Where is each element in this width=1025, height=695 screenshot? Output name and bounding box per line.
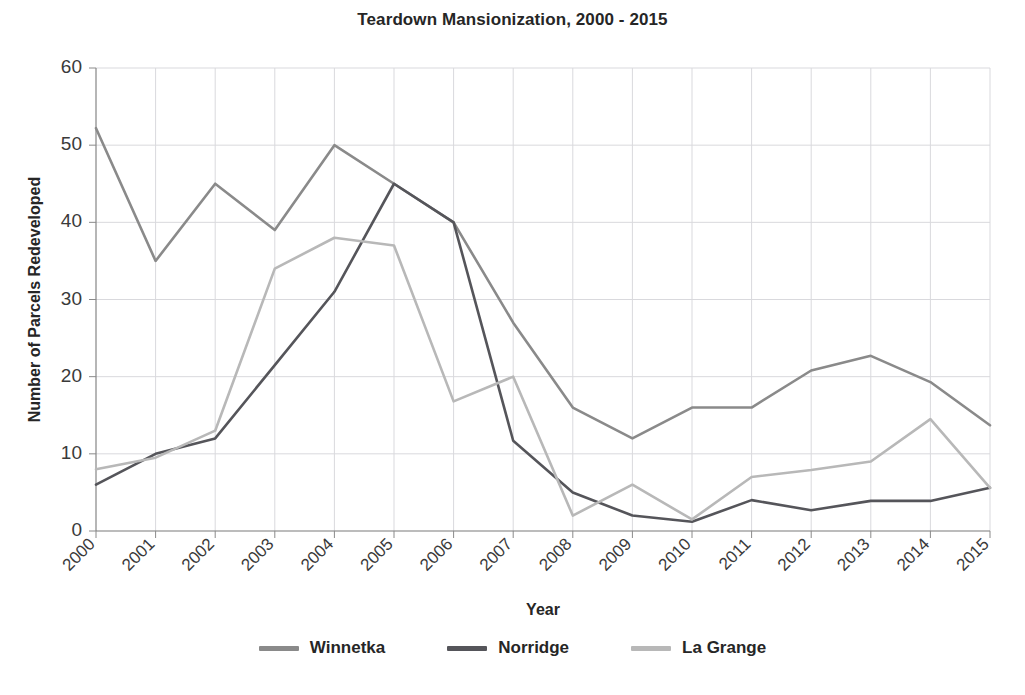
x-tick-label: 2012 bbox=[774, 534, 814, 574]
y-tick-label: 40 bbox=[61, 210, 82, 231]
x-tick-label: 2008 bbox=[535, 534, 575, 574]
chart-legend: WinnetkaNorridgeLa Grange bbox=[0, 638, 1025, 658]
x-tick-label: 2000 bbox=[59, 534, 99, 574]
x-tick-label: 2007 bbox=[476, 534, 516, 574]
chart-container: Teardown Mansionization, 2000 - 2015 010… bbox=[0, 0, 1025, 695]
x-tick-label: 2002 bbox=[178, 534, 218, 574]
x-tick-label: 2014 bbox=[893, 534, 933, 574]
legend-label: La Grange bbox=[682, 638, 766, 658]
x-tick-label: 2010 bbox=[655, 534, 695, 574]
legend-label: Winnetka bbox=[310, 638, 385, 658]
y-axis-ticks: 0102030405060 bbox=[61, 56, 96, 540]
x-tick-label: 2006 bbox=[416, 534, 456, 574]
legend-swatch-icon bbox=[631, 646, 671, 651]
legend-label: Norridge bbox=[498, 638, 569, 658]
y-tick-label: 50 bbox=[61, 133, 82, 154]
legend-swatch-icon bbox=[447, 646, 487, 651]
x-tick-label: 2013 bbox=[833, 534, 873, 574]
y-tick-label: 60 bbox=[61, 56, 82, 77]
y-tick-label: 10 bbox=[61, 442, 82, 463]
x-tick-label: 2009 bbox=[595, 534, 635, 574]
legend-item-winnetka[interactable]: Winnetka bbox=[259, 638, 385, 658]
x-tick-label: 2005 bbox=[357, 534, 397, 574]
x-tick-label: 2004 bbox=[297, 534, 337, 574]
data-series bbox=[96, 128, 990, 522]
x-axis-title: Year bbox=[526, 601, 560, 618]
legend-item-norridge[interactable]: Norridge bbox=[447, 638, 569, 658]
line-chart-plot: 0102030405060 20002001200220032004200520… bbox=[0, 0, 1025, 695]
series-line-norridge bbox=[96, 184, 990, 522]
y-tick-label: 30 bbox=[61, 288, 82, 309]
axis-titles: YearNumber of Parcels Redeveloped bbox=[26, 177, 560, 618]
y-tick-label: 20 bbox=[61, 365, 82, 386]
y-tick-label: 0 bbox=[71, 519, 82, 540]
x-tick-label: 2003 bbox=[237, 534, 277, 574]
x-tick-label: 2015 bbox=[953, 534, 993, 574]
series-line-la-grange bbox=[96, 238, 990, 520]
x-axis-ticks: 2000200120022003200420052006200720082009… bbox=[59, 531, 993, 575]
y-axis-title: Number of Parcels Redeveloped bbox=[26, 177, 43, 422]
x-tick-label: 2001 bbox=[118, 534, 158, 574]
legend-swatch-icon bbox=[259, 646, 299, 651]
x-tick-label: 2011 bbox=[715, 534, 754, 573]
grid-lines bbox=[96, 68, 990, 531]
legend-item-la-grange[interactable]: La Grange bbox=[631, 638, 766, 658]
